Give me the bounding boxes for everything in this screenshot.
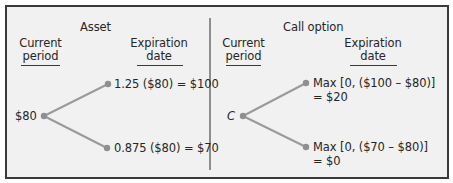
asset-up-label: 1.25 ($80) = $100 bbox=[114, 78, 219, 91]
option-current-header-line2: period bbox=[221, 50, 266, 63]
option-expiration-header-line2: date bbox=[344, 50, 402, 63]
option-current-underline bbox=[226, 65, 261, 66]
option-expiration-underline bbox=[350, 65, 397, 66]
asset-expiration-underline bbox=[137, 65, 183, 66]
asset-current-header-line2: period bbox=[18, 50, 63, 63]
option-down-label-line2: = $0 bbox=[313, 155, 341, 168]
asset-panel-title: Asset bbox=[80, 21, 111, 34]
option-down-label-line1: Max [0, ($70 – $80)] bbox=[313, 141, 428, 154]
asset-expiration-header-line2: date bbox=[130, 50, 188, 63]
option-up-label-line1: Max [0, ($100 – $80)] bbox=[313, 77, 435, 90]
option-up-label-line2: = $20 bbox=[313, 91, 348, 104]
asset-down-label: 0.875 ($80) = $70 bbox=[114, 142, 219, 155]
option-panel-title: Call option bbox=[283, 21, 343, 34]
asset-root-label: $80 bbox=[15, 110, 37, 123]
asset-current-underline bbox=[21, 65, 60, 66]
option-root-label: C bbox=[227, 110, 235, 123]
